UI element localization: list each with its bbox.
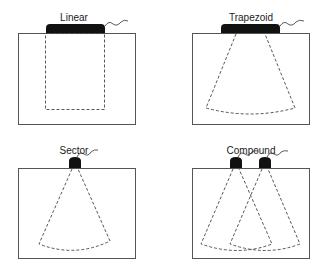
beam-sector (39, 169, 110, 250)
linear-probe-icon (46, 24, 105, 33)
beam-rectangle (46, 34, 105, 110)
panel-sector: Sector (19, 145, 136, 259)
tissue-box (193, 34, 310, 125)
tissue-box (19, 169, 136, 259)
beam-trapezoid (206, 34, 295, 114)
tissue-box (193, 169, 310, 259)
tissue-box (19, 34, 136, 125)
compound-probe-left-icon (230, 157, 242, 168)
trapezoid-probe-icon (221, 24, 280, 33)
probe-cable-icon (105, 20, 128, 26)
panel-trapezoid: Trapezoid (193, 12, 310, 125)
transducer-diagram: Linear Trapezoid Sector Compound (0, 0, 322, 266)
panel-label-linear: Linear (60, 12, 88, 23)
sector-probe-icon (69, 157, 81, 168)
compound-probe-right-icon (259, 157, 271, 168)
beam-sector-left (201, 169, 272, 251)
probe-cable-icon (280, 20, 304, 26)
panel-linear: Linear (19, 12, 136, 125)
panel-label-compound: Compound (227, 145, 276, 156)
panel-label-trapezoid: Trapezoid (229, 12, 273, 23)
beam-sector-right (230, 169, 300, 251)
panel-compound: Compound (193, 145, 310, 259)
